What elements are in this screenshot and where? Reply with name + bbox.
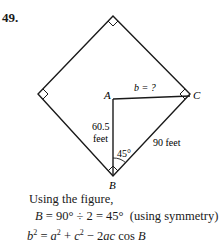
baseball-diamond-figure: A C B b = ? 60.5 feet 90 feet 45° xyxy=(0,0,224,190)
label-angle: 45° xyxy=(117,148,131,159)
var-ac: ac xyxy=(103,229,115,243)
label-side-c: 90 feet xyxy=(153,137,181,148)
label-b-vertex: B xyxy=(109,179,116,190)
plus: + xyxy=(61,229,74,243)
label-side-a-value: 60.5 xyxy=(92,121,110,132)
solution-step-angle: B = 90° ÷ 2 = 45° (using symmetry) xyxy=(35,209,218,224)
var-b-angle: B xyxy=(35,209,43,223)
equals: = xyxy=(37,229,50,243)
right-angle-mark-right xyxy=(180,89,185,99)
right-angle-mark-top xyxy=(108,21,118,26)
label-side-a-unit: feet xyxy=(93,133,108,144)
label-a: A xyxy=(103,89,111,101)
cos: cos xyxy=(115,229,138,243)
segment-ac xyxy=(113,96,190,99)
diamond-outline xyxy=(38,16,190,176)
symmetry-note: (using symmetry) xyxy=(124,209,219,223)
label-c: C xyxy=(193,89,201,101)
solution-intro: Using the figure, xyxy=(29,192,113,207)
right-angle-mark-left xyxy=(43,89,48,99)
angle-expression: = 90° ÷ 2 = 45° xyxy=(43,209,124,223)
law-of-cosines-equation: b2 = a2 + c2 − 2ac cos B xyxy=(27,229,146,244)
label-b-unknown: b = ? xyxy=(134,82,156,93)
minus-two: − 2 xyxy=(84,229,104,243)
var-b-angle: B xyxy=(138,229,146,243)
